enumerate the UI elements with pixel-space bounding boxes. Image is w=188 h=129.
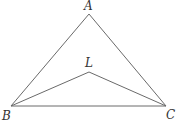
segment-lc xyxy=(89,72,166,106)
segment-ac xyxy=(89,14,166,106)
label-l: L xyxy=(84,56,93,70)
segment-bl xyxy=(11,72,89,106)
label-c: C xyxy=(166,108,175,122)
label-b: B xyxy=(1,109,11,123)
segment-ab xyxy=(11,14,89,106)
label-a: A xyxy=(83,0,93,13)
triangle-diagram: A B C L xyxy=(0,0,188,129)
